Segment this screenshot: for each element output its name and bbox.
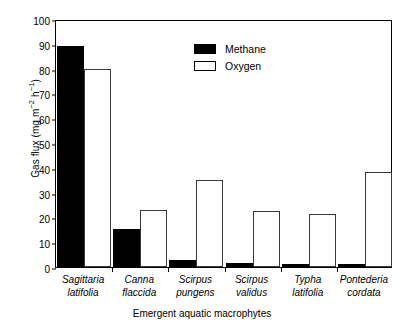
legend-item-methane: Methane bbox=[194, 40, 266, 57]
legend-item-oxygen: Oxygen bbox=[194, 57, 266, 74]
bar-group bbox=[57, 21, 111, 267]
x-axis-category-label: Typhalatifolia bbox=[280, 274, 336, 299]
bar-oxygen bbox=[365, 172, 392, 267]
legend-swatch-methane-icon bbox=[194, 44, 216, 54]
x-axis-category-line-1: Scirpus bbox=[235, 274, 268, 285]
x-axis-tick-mark bbox=[337, 267, 338, 272]
x-axis-category-line-1: Typha bbox=[294, 274, 321, 285]
x-axis-category-label: Pontederiacordata bbox=[336, 274, 392, 299]
y-axis-tick-label: 40 bbox=[39, 164, 50, 175]
y-axis-tick-label: 30 bbox=[39, 189, 50, 200]
bar-methane bbox=[282, 264, 309, 267]
legend: Methane Oxygen bbox=[194, 40, 266, 74]
y-axis-tick-label: 20 bbox=[39, 214, 50, 225]
y-axis-tick-mark bbox=[52, 269, 56, 270]
y-axis-tick-label: 10 bbox=[39, 239, 50, 250]
x-axis-tick-mark bbox=[281, 267, 282, 272]
bar-group bbox=[282, 21, 336, 267]
bar-group bbox=[113, 21, 167, 267]
x-axis-category-line-1: Canna bbox=[125, 274, 154, 285]
x-axis-category-label: Scirpusvalidus bbox=[224, 274, 280, 299]
legend-label-oxygen: Oxygen bbox=[225, 60, 261, 72]
y-axis-tick-label: 60 bbox=[39, 115, 50, 126]
x-axis-tick-mark bbox=[225, 267, 226, 272]
y-axis-tick-label: 80 bbox=[39, 65, 50, 76]
bar-oxygen bbox=[253, 211, 280, 267]
bar-oxygen bbox=[309, 214, 336, 267]
x-axis-category-line-1: Pontederia bbox=[340, 274, 388, 285]
x-axis-title: Emergent aquatic macrophytes bbox=[0, 308, 404, 319]
y-axis-title-sup-1: −2 bbox=[27, 100, 36, 109]
bar-methane bbox=[169, 260, 196, 267]
bar-methane bbox=[113, 229, 140, 267]
x-axis-category-label: Cannaflaccida bbox=[111, 274, 167, 299]
x-axis-category-line-2: flaccida bbox=[111, 287, 167, 300]
bar-methane bbox=[338, 264, 365, 267]
x-axis-category-line-2: pungens bbox=[167, 287, 223, 300]
y-axis-tick-label: 70 bbox=[39, 90, 50, 101]
y-axis-tick-label: 50 bbox=[39, 140, 50, 151]
bar-oxygen bbox=[196, 180, 223, 267]
x-axis-category-line-2: cordata bbox=[336, 287, 392, 300]
x-axis-category-label: Sagittarialatifolia bbox=[55, 274, 111, 299]
legend-swatch-oxygen-icon bbox=[194, 61, 216, 71]
bar-methane bbox=[226, 263, 253, 267]
y-axis-title-suffix: ) bbox=[30, 79, 41, 82]
x-axis-category-line-2: latifolia bbox=[55, 287, 111, 300]
x-axis-category-line-2: validus bbox=[224, 287, 280, 300]
x-axis-tick-mark bbox=[168, 267, 169, 272]
x-axis-category-label: Scirpuspungens bbox=[167, 274, 223, 299]
bar-methane bbox=[57, 46, 84, 267]
bar-oxygen bbox=[140, 210, 167, 267]
figure: Gas flux (mg m−2 h−1) 010203040506070809… bbox=[0, 0, 404, 333]
legend-label-methane: Methane bbox=[225, 43, 266, 55]
y-axis-tick-label: 90 bbox=[39, 40, 50, 51]
x-axis-category-line-1: Sagittaria bbox=[62, 274, 104, 285]
x-axis-category-line-1: Scirpus bbox=[179, 274, 212, 285]
bar-oxygen bbox=[84, 69, 111, 267]
y-axis-tick-label: 0 bbox=[44, 264, 50, 275]
bar-group bbox=[338, 21, 392, 267]
x-axis-category-line-2: latifolia bbox=[280, 287, 336, 300]
x-axis-tick-mark bbox=[112, 267, 113, 272]
y-axis-tick-label: 100 bbox=[33, 16, 50, 27]
y-axis-title-sup-2: −1 bbox=[27, 83, 36, 92]
